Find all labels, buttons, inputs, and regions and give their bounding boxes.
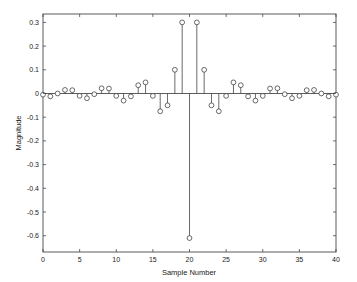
- x-tick-label: 15: [149, 256, 157, 263]
- y-axis-label: Magnitude: [14, 115, 23, 150]
- x-tick-label: 40: [332, 256, 340, 263]
- x-tick-label: 25: [222, 256, 230, 263]
- stem-point: [63, 88, 68, 94]
- y-tick-label: -0.4: [27, 185, 39, 192]
- y-tick-label: 0.1: [29, 66, 39, 73]
- stem-point: [326, 94, 331, 99]
- stem-point: [143, 80, 148, 94]
- stem-point: [129, 94, 134, 99]
- y-tick-label: -0.3: [27, 161, 39, 168]
- stem-point: [165, 94, 170, 108]
- stem-point: [290, 94, 295, 101]
- x-tick-label: 0: [41, 256, 45, 263]
- stem-point: [268, 86, 273, 93]
- stem-point: [194, 20, 199, 94]
- x-tick-label: 30: [259, 256, 267, 263]
- stem-point: [187, 94, 192, 241]
- stem-point: [238, 83, 243, 94]
- stem-point: [107, 86, 112, 93]
- stem-point: [114, 93, 119, 98]
- stem-point: [92, 92, 97, 97]
- y-tick-label: -0.2: [27, 137, 39, 144]
- stem-point: [77, 93, 82, 98]
- stem-point: [158, 94, 163, 114]
- y-tick-label: 0.2: [29, 43, 39, 50]
- stem-point: [41, 92, 46, 97]
- stem-point: [224, 93, 229, 98]
- stem-point: [334, 92, 339, 97]
- stem-point: [180, 20, 185, 94]
- stem-point: [85, 94, 90, 101]
- stem-point: [275, 86, 280, 94]
- y-tick-label: 0.3: [29, 19, 39, 26]
- y-tick-label: -0.1: [27, 114, 39, 121]
- stem-point: [246, 94, 251, 99]
- stem-point: [121, 94, 126, 104]
- stem-point: [253, 94, 258, 104]
- stem-series: [41, 20, 339, 240]
- stem-point: [282, 92, 287, 97]
- stem-point: [260, 93, 265, 98]
- stem-point: [209, 94, 214, 108]
- stem-point: [231, 80, 236, 94]
- y-tick-label: -0.5: [27, 209, 39, 216]
- y-tick-label: 0: [35, 90, 39, 97]
- y-tick-label: -0.6: [27, 232, 39, 239]
- x-tick-label: 10: [112, 256, 120, 263]
- stem-point: [297, 93, 302, 98]
- stem-plot: 0510152025303540 -0.6-0.5-0.4-0.3-0.2-0.…: [0, 0, 357, 282]
- stem-point: [216, 94, 221, 114]
- stem-point: [48, 94, 53, 99]
- stem-point: [70, 88, 75, 94]
- stem-point: [312, 88, 317, 94]
- x-tick-label: 20: [186, 256, 194, 263]
- stem-point: [172, 67, 177, 93]
- y-axis-ticks: -0.6-0.5-0.4-0.3-0.2-0.100.10.20.3: [27, 19, 336, 239]
- stem-point: [150, 93, 155, 98]
- x-axis-ticks: 0510152025303540: [41, 14, 340, 263]
- stem-point: [55, 91, 60, 96]
- stem-point: [99, 86, 104, 94]
- x-tick-label: 35: [295, 256, 303, 263]
- stem-point: [202, 67, 207, 93]
- stem-point: [319, 91, 324, 96]
- x-tick-label: 5: [78, 256, 82, 263]
- stem-point: [136, 83, 141, 94]
- x-axis-label: Sample Number: [162, 268, 217, 277]
- stem-point: [304, 88, 309, 94]
